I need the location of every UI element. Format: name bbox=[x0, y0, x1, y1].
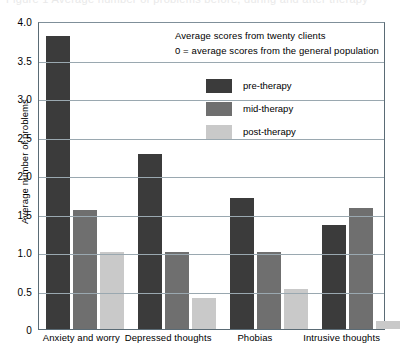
bar-pre-therapy bbox=[138, 154, 162, 329]
chart-annotations: Average scores from twenty clients0 = av… bbox=[175, 28, 379, 58]
y-tick-label: 4.0 bbox=[17, 17, 32, 28]
plot-area bbox=[38, 22, 385, 330]
legend-label: mid-therapy bbox=[243, 103, 293, 114]
bar-pre-therapy bbox=[322, 225, 346, 329]
y-tick-label: 3.5 bbox=[17, 55, 32, 66]
legend-item: post-therapy bbox=[206, 122, 296, 141]
legend-swatch-mid-therapy bbox=[206, 102, 232, 116]
legend-swatch-pre-therapy bbox=[206, 79, 232, 93]
legend-label: post-therapy bbox=[243, 126, 296, 137]
y-axis-ticks: 4.03.53.02.52.01.51.00.50 bbox=[0, 0, 36, 355]
gridline bbox=[39, 62, 384, 63]
gridline bbox=[39, 177, 384, 178]
y-tick-label: 1.5 bbox=[17, 209, 32, 220]
bar-group bbox=[315, 23, 404, 329]
bar-group bbox=[223, 23, 315, 329]
x-tick-label: Depressed thoughts bbox=[125, 332, 212, 343]
y-tick-label: 0.5 bbox=[17, 286, 32, 297]
bar-post-therapy bbox=[100, 252, 124, 329]
cut-off-caption: Figure 1 Average number of problems befo… bbox=[0, 0, 397, 14]
annotation-line: 0 = average scores from the general popu… bbox=[175, 43, 379, 58]
legend-label: pre-therapy bbox=[243, 80, 292, 91]
bar-pre-therapy bbox=[230, 198, 254, 329]
legend: pre-therapymid-therapypost-therapy bbox=[206, 76, 296, 145]
legend-swatch-post-therapy bbox=[206, 125, 232, 139]
legend-item: pre-therapy bbox=[206, 76, 296, 95]
y-tick-label: 2.5 bbox=[17, 132, 32, 143]
annotation-line: Average scores from twenty clients bbox=[175, 28, 379, 43]
bar-post-therapy bbox=[192, 298, 216, 329]
bar-group bbox=[39, 23, 131, 329]
y-tick-label: 3.0 bbox=[17, 94, 32, 105]
y-tick-label: 1.0 bbox=[17, 248, 32, 259]
bar-mid-therapy bbox=[73, 210, 97, 329]
gridline bbox=[39, 254, 384, 255]
bar-post-therapy bbox=[284, 289, 308, 329]
x-tick-label: Intrusive thoughts bbox=[298, 332, 385, 343]
x-axis-ticks: Anxiety and worryDepressed thoughtsPhobi… bbox=[38, 332, 385, 343]
gridline bbox=[39, 216, 384, 217]
cut-off-caption-text: Figure 1 Average number of problems befo… bbox=[6, 0, 397, 5]
bar-group bbox=[131, 23, 223, 329]
bar-groups bbox=[39, 23, 384, 329]
legend-item: mid-therapy bbox=[206, 99, 296, 118]
y-tick-label: 2.0 bbox=[17, 171, 32, 182]
bar-mid-therapy bbox=[165, 252, 189, 329]
gridline bbox=[39, 293, 384, 294]
bar-post-therapy bbox=[376, 321, 400, 329]
bar-mid-therapy bbox=[257, 252, 281, 329]
bar-mid-therapy bbox=[349, 208, 373, 329]
y-tick-label: 0 bbox=[26, 325, 32, 336]
x-tick-label: Anxiety and worry bbox=[38, 332, 125, 343]
bar-pre-therapy bbox=[46, 36, 70, 329]
x-tick-label: Phobias bbox=[212, 332, 299, 343]
